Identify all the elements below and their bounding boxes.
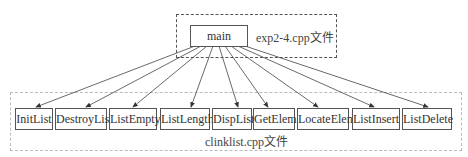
function-node-destroylist: DestroyList: [55, 108, 107, 130]
function-node-listinsert: ListInsert: [352, 108, 400, 130]
function-node-getelem: GetElem: [253, 108, 295, 130]
exp2-4-file-label: exp2-4.cpp文件: [256, 28, 334, 46]
function-node-listdelete: ListDelete: [402, 108, 452, 130]
function-node-initlist: InitList: [15, 108, 53, 130]
function-node-locateelem: LocateElem: [297, 108, 349, 130]
function-node-listempty: ListEmpty: [109, 108, 157, 130]
clinklist-file-label: clinklist.cpp文件: [205, 132, 288, 150]
function-node-listlength: ListLength: [160, 108, 210, 130]
function-node-displist: DispList: [212, 108, 252, 130]
main-node: main: [190, 25, 248, 47]
